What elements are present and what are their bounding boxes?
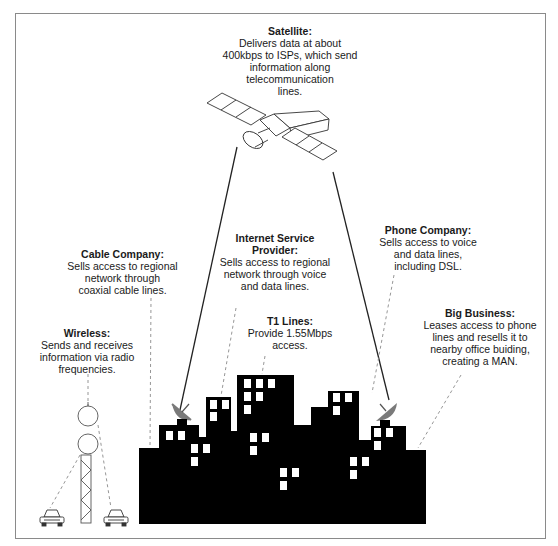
- satellite-link-right: [333, 172, 389, 400]
- wireless-desc: Sends and receives information via radio…: [32, 339, 142, 375]
- satellite-title: Satellite:: [200, 25, 380, 37]
- t1-lines-title: T1 Lines:: [240, 315, 340, 327]
- big-business-title: Big Business:: [420, 307, 540, 319]
- cable-company-title: Cable Company:: [65, 248, 180, 260]
- label-wireless: Wireless: Sends and receives information…: [32, 327, 142, 375]
- label-t1-lines: T1 Lines: Provide 1.55Mbps access.: [240, 315, 340, 351]
- satellite-dish-icon: [172, 404, 191, 425]
- big-business-desc: Leases access to phone lines and resells…: [420, 319, 540, 367]
- t1-lines-desc: Provide 1.55Mbps access.: [240, 327, 340, 351]
- wireless-title: Wireless:: [32, 327, 142, 339]
- label-phone-company: Phone Company: Sells access to voice and…: [372, 224, 484, 272]
- isp-title: Internet Service Provider:: [210, 232, 340, 256]
- phone-company-title: Phone Company:: [372, 224, 484, 236]
- city-buildings-icon: [139, 375, 426, 524]
- car-icon: [104, 510, 128, 526]
- satellite-dish-icon: [376, 403, 397, 426]
- label-big-business: Big Business: Leases access to phone lin…: [420, 307, 540, 367]
- cable-company-desc: Sells access to regional network through…: [65, 260, 180, 296]
- car-icon: [40, 510, 64, 526]
- radio-tower-icon: [78, 402, 98, 523]
- label-satellite: Satellite: Delivers data at about 400kbp…: [200, 25, 380, 97]
- label-cable-company: Cable Company: Sells access to regional …: [65, 248, 180, 296]
- satellite-desc: Delivers data at about 400kbps to ISPs, …: [200, 37, 380, 97]
- isp-desc: Sells access to regional network through…: [210, 256, 340, 292]
- satellite-icon: [207, 93, 337, 160]
- label-isp: Internet Service Provider: Sells access …: [210, 232, 340, 292]
- phone-company-desc: Sells access to voice and data lines, in…: [372, 236, 484, 272]
